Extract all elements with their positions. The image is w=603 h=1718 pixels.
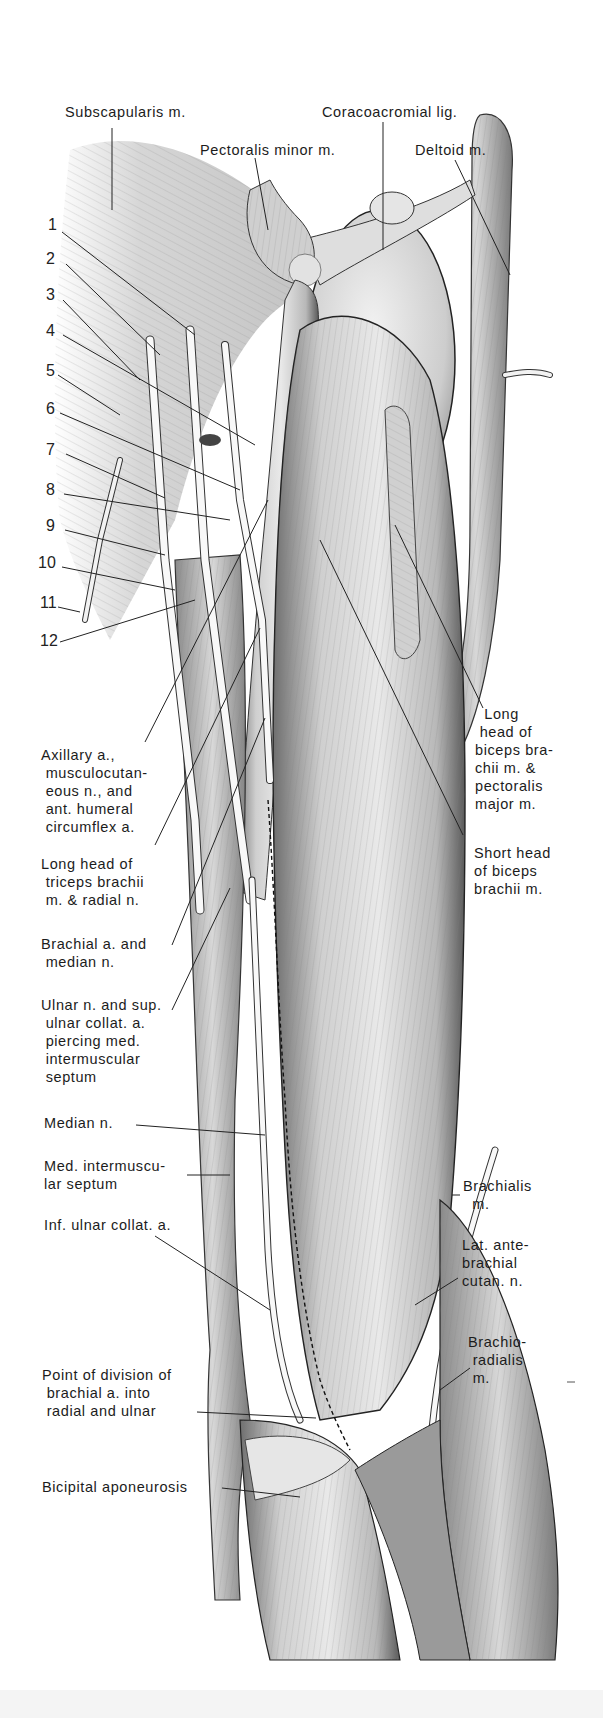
label-number-1: 1 [48,216,57,234]
label-inferior-ulnar-collateral-artery: Inf. ulnar collat. a. [44,1216,171,1234]
label-short-head-biceps: Short head of biceps brachii m. [474,844,551,898]
label-deltoid: Deltoid m. [415,141,486,159]
label-median-nerve: Median n. [44,1114,113,1132]
label-long-head-triceps: Long head of triceps brachii m. & radial… [41,855,144,909]
label-long-head-biceps: Long head of biceps bra- chii m. & pecto… [475,705,553,813]
label-number-11: 11 [40,594,57,612]
label-medial-intermuscular-septum: Med. intermuscu- lar septum [44,1157,166,1193]
label-bicipital-aponeurosis: Bicipital aponeurosis [42,1478,188,1496]
label-brachial-artery-median-nerve: Brachial a. and median n. [41,935,147,971]
label-number-9: 9 [46,517,55,535]
label-subscapularis: Subscapularis m. [65,103,186,121]
label-ulnar-nerve: Ulnar n. and sup. ulnar collat. a. pierc… [41,996,162,1086]
label-pectoralis-minor: Pectoralis minor m. [200,141,336,159]
label-lateral-antebrachial-cutaneous-nerve: Lat. ante- brachial cutan. n. [462,1236,529,1290]
scan-bottom-margin [0,1690,603,1718]
label-number-10: 10 [38,554,56,572]
label-coracoacromial-ligament: Coracoacromial lig. [322,103,458,121]
label-number-5: 5 [46,362,55,380]
label-number-4: 4 [46,322,55,340]
label-point-of-division: Point of division of brachial a. into ra… [42,1366,172,1420]
label-axillary-artery: Axillary a., musculocutan- eous n., and … [41,746,148,836]
label-number-3: 3 [46,286,55,304]
label-number-8: 8 [46,481,55,499]
label-number-12: 12 [40,632,58,650]
label-number-7: 7 [46,441,55,459]
label-number-2: 2 [46,250,55,268]
label-number-6: 6 [46,400,55,418]
label-brachioradialis: Brachio- radialis m. [468,1333,527,1387]
biceps-muscle-shape [273,316,465,1420]
label-brachialis: Brachialis m. [463,1177,532,1213]
axillary-vein-cut-shape [199,434,221,446]
